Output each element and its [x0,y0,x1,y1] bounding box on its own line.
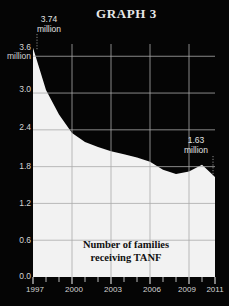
y-axis-tick-1-8: 1.8 [19,162,31,171]
x-axis-labels: 1997 2000 2003 2006 2009 2011 [0,285,229,301]
x-axis-tick-2006: 2006 [143,285,161,294]
x-axis-tick-2011: 2011 [206,285,223,294]
y-axis-tick-0-6: 0.6 [19,236,31,245]
chart-caption: Number of families receiving TANF [40,238,212,264]
y-axis-tick-3-6: 3.6 million [7,43,31,61]
y-axis-tick-2-4: 2.4 [19,123,31,132]
y-axis-labels: 3.6 million 3.0 2.4 1.8 1.2 0.6 0.0 [0,0,31,306]
callout-start-value: 3.74 million [27,14,71,34]
y-axis-tick-3-0: 3.0 [19,85,31,94]
x-axis-tick-1997: 1997 [26,285,44,294]
x-axis-tick-2003: 2003 [104,285,122,294]
x-axis-tick-2000: 2000 [65,285,83,294]
callout-end-value: 1.63 million [172,135,220,155]
y-axis-tick-1-2: 1.2 [19,199,31,208]
graph-panel: GRAPH 3 3.6 million 3.0 2.4 1.8 1. [0,0,229,306]
page-title: GRAPH 3 [96,6,206,22]
x-axis-tick-2009: 2009 [178,285,196,294]
